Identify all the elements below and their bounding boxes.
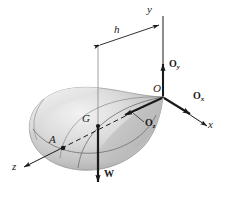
axis-label-x: x xyxy=(208,119,213,130)
point-label-O: O xyxy=(153,83,161,94)
vector-label-W: W xyxy=(104,169,114,179)
vector-label-Oz-base: O xyxy=(145,117,153,128)
point-label-G: G xyxy=(82,113,90,124)
vector-label-Ox: Ox xyxy=(193,91,204,103)
point-marker-G xyxy=(96,124,100,128)
vector-label-Oy-subscript: y xyxy=(177,63,180,71)
diagram-canvas xyxy=(0,0,242,199)
vector-label-Ox-subscript: x xyxy=(201,95,205,103)
vector-label-Ox-base: O xyxy=(193,90,201,101)
rigid-body-shape xyxy=(29,87,163,170)
vector-Ox xyxy=(164,98,190,114)
vector-label-Oy: Oy xyxy=(169,59,180,71)
axis-label-z: z xyxy=(12,161,16,172)
point-label-A: A xyxy=(49,134,56,145)
vector-label-Oz-subscript: z xyxy=(153,122,156,130)
vector-label-Oy-base: O xyxy=(169,58,177,69)
free-body-diagram: y x z O G A h Oy Ox Oz W xyxy=(0,0,242,199)
dimension-label-h: h xyxy=(114,24,120,35)
point-marker-A xyxy=(61,146,66,151)
vector-label-Oz: Oz xyxy=(145,118,156,130)
axis-label-y: y xyxy=(147,4,152,15)
vector-Ox-arrow xyxy=(164,98,190,114)
dimension-h-arrow xyxy=(100,25,159,45)
